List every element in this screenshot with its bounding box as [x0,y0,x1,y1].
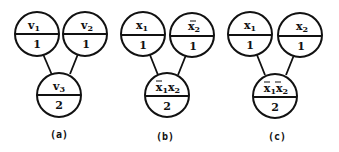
node-x1bar-x2: x1x2 2 [145,73,189,117]
node-x1: x1 1 [228,12,272,56]
edge-x2-x1barx2bar [286,55,294,75]
node-x2bar: x2 1 [170,13,214,57]
edge-x1-x1barx2 [150,55,158,75]
edge-v1-v3 [43,54,52,75]
edge-v2-v3 [70,54,78,74]
node-x2-weight: 1 [297,40,305,53]
diagram-canvas: v1 1 v2 1 v3 2 (a) x1 1 [0,0,339,152]
node-x1-weight: 1 [246,39,254,52]
edge-x2bar-x1barx2 [178,55,186,75]
node-x1: x1 1 [121,12,165,56]
caption-b: (b) [156,131,174,142]
node-v1: v1 1 [15,12,59,56]
node-v2-weight: 1 [82,38,90,51]
caption-c: (c) [268,131,286,142]
edge-x1-x1barx2bar [257,55,265,75]
node-v2: v2 1 [63,12,107,56]
node-v3: v3 2 [37,73,81,117]
node-x1bar-x2bar: x1x2 2 [253,74,297,118]
node-x2bar-weight: 1 [189,40,197,53]
node-x1-weight: 1 [139,39,147,52]
node-x2: x2 1 [278,13,322,57]
node-v1-weight: 1 [33,38,41,51]
diagram-b: x1 1 x2 1 x1x2 2 (b) [121,12,214,142]
diagram-a: v1 1 v2 1 v3 2 (a) [15,12,107,140]
diagram-c: x1 1 x2 1 x1x2 2 (c) [228,12,322,142]
caption-a: (a) [50,129,68,140]
node-v3-weight: 2 [55,99,63,112]
node-x1bar-x2bar-weight: 2 [271,101,279,114]
node-x1bar-x2-weight: 2 [163,100,171,113]
